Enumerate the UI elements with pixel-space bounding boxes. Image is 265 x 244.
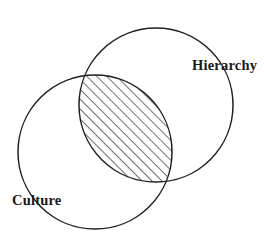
venn-diagram-figure: Hierarchy Culture <box>0 0 265 244</box>
set-label-culture: Culture <box>12 192 62 208</box>
set-label-hierarchy: Hierarchy <box>192 57 258 73</box>
venn-diagram-canvas: Hierarchy Culture <box>0 0 265 244</box>
